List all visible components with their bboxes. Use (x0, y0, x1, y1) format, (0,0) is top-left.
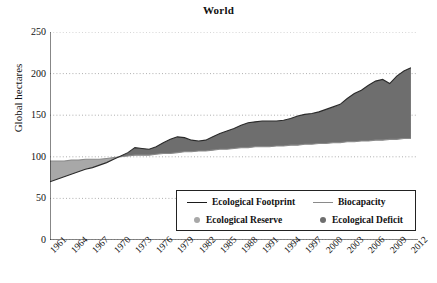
legend-label: Biocapacity (338, 197, 386, 207)
legend-dot-icon (320, 217, 326, 223)
legend-label: Ecological Deficit (332, 215, 403, 225)
legend-item-ecological-footprint: Ecological Footprint (187, 193, 295, 211)
legend-item-ecological-deficit: Ecological Deficit (313, 211, 403, 229)
legend-item-ecological-reserve: Ecological Reserve (187, 211, 282, 229)
legend-line-icon (187, 202, 207, 203)
legend-label: Ecological Reserve (206, 215, 282, 225)
legend-line-icon (313, 202, 333, 203)
legend-label: Ecological Footprint (212, 197, 295, 207)
chart-page: World Global hectares 050100150200250 19… (0, 0, 437, 283)
legend-dot-icon (194, 217, 200, 223)
chart-legend: Ecological Footprint Biocapacity Ecologi… (176, 190, 416, 231)
legend-item-biocapacity: Biocapacity (313, 193, 386, 211)
